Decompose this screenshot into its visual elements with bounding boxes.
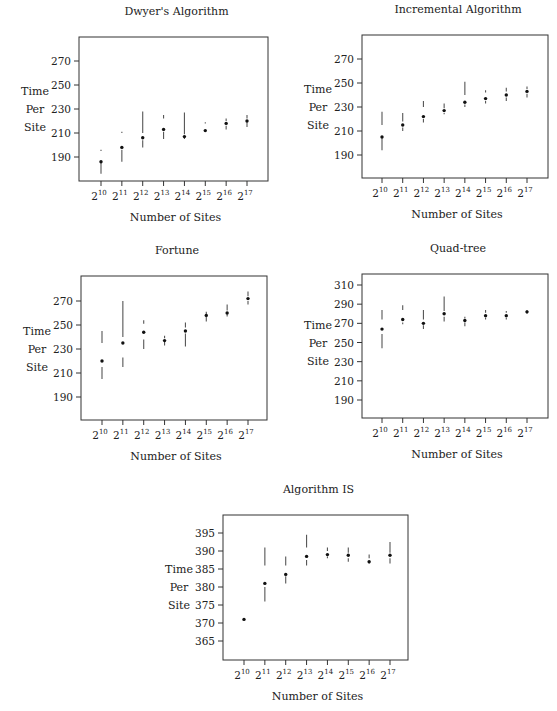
x-tick-label: 212 <box>414 186 430 199</box>
y-tick-label: 250 <box>51 79 71 91</box>
x-tick-label: 211 <box>393 186 409 199</box>
plot-frame <box>79 37 268 181</box>
y-tick-label: 210 <box>51 127 71 139</box>
chart-title: Fortune <box>155 244 199 257</box>
y-axis-label: Site <box>307 119 329 132</box>
x-tick-label: 213 <box>434 426 450 439</box>
median-point <box>99 160 102 163</box>
median-point <box>401 123 404 126</box>
x-tick-label: 212 <box>414 426 430 439</box>
x-tick-label: 211 <box>393 426 409 439</box>
y-tick-label: 390 <box>195 545 215 557</box>
y-axis-label: Per <box>309 337 328 350</box>
y-axis-label: Time <box>23 325 51 338</box>
x-tick-label: 213 <box>297 668 313 681</box>
y-tick-label: 190 <box>53 391 73 403</box>
median-point <box>401 318 404 321</box>
y-tick-label: 270 <box>334 317 354 329</box>
x-tick-label: 215 <box>196 428 212 441</box>
median-point <box>422 115 425 118</box>
x-tick-label: 217 <box>517 186 533 199</box>
chart-panel-4: Algorithm IS365370375380385390395TimePer… <box>165 483 408 703</box>
median-point <box>121 341 124 344</box>
median-point <box>505 93 508 96</box>
median-point <box>142 331 145 334</box>
x-tick-label: 214 <box>318 668 334 681</box>
x-tick-label: 212 <box>276 668 292 681</box>
y-tick-label: 230 <box>53 343 73 355</box>
median-point <box>162 128 165 131</box>
plot-frame <box>81 276 267 420</box>
x-tick-label: 213 <box>434 186 450 199</box>
y-tick-label: 230 <box>51 103 71 115</box>
median-point <box>347 554 350 557</box>
x-tick-label: 216 <box>217 428 233 441</box>
y-axis-label: Per <box>26 103 45 116</box>
figure-canvas: Dwyer's Algorithm190210230250270TimePerS… <box>0 0 557 711</box>
y-axis-label: Site <box>168 599 190 612</box>
median-point <box>525 310 528 313</box>
chart-title: Dwyer's Algorithm <box>124 5 229 18</box>
y-tick-label: 210 <box>334 125 354 137</box>
x-tick-label: 215 <box>476 426 492 439</box>
x-tick-label: 213 <box>155 428 171 441</box>
x-tick-label: 214 <box>455 426 471 439</box>
y-axis-label: Site <box>24 121 46 134</box>
x-tick-label: 216 <box>496 186 512 199</box>
x-tick-label: 213 <box>154 189 170 202</box>
x-tick-label: 214 <box>176 428 192 441</box>
y-tick-label: 270 <box>334 53 354 65</box>
y-tick-label: 290 <box>334 298 354 310</box>
y-tick-label: 395 <box>195 527 215 539</box>
y-tick-label: 270 <box>53 295 73 307</box>
plot-frame <box>362 35 548 178</box>
median-point <box>183 135 186 138</box>
chart-panel-0: Dwyer's Algorithm190210230250270TimePerS… <box>21 5 268 224</box>
y-tick-label: 250 <box>334 77 354 89</box>
x-tick-label: 215 <box>195 189 211 202</box>
median-point <box>380 135 383 138</box>
plot-frame <box>362 274 548 418</box>
median-point <box>442 109 445 112</box>
median-point <box>204 129 207 132</box>
y-axis-label: Time <box>304 319 332 332</box>
median-point <box>284 573 287 576</box>
median-point <box>484 97 487 100</box>
y-tick-label: 210 <box>53 367 73 379</box>
y-axis-label: Per <box>309 101 328 114</box>
median-point <box>484 314 487 317</box>
y-axis-label: Time <box>304 83 332 96</box>
y-axis-label: Per <box>28 343 47 356</box>
median-point <box>367 560 370 563</box>
x-tick-label: 212 <box>134 428 150 441</box>
median-point <box>225 311 228 314</box>
x-axis-label: Number of Sites <box>130 450 222 463</box>
median-point <box>246 297 249 300</box>
median-point <box>463 319 466 322</box>
chart-panel-3: Quad-tree190210230250270290310TimePerSit… <box>304 242 548 461</box>
x-tick-label: 215 <box>338 668 354 681</box>
median-point <box>463 101 466 104</box>
y-tick-label: 190 <box>51 151 71 163</box>
median-point <box>305 555 308 558</box>
x-axis-label: Number of Sites <box>411 208 503 221</box>
y-tick-label: 230 <box>334 356 354 368</box>
median-point <box>141 136 144 139</box>
x-tick-label: 217 <box>380 668 396 681</box>
y-axis-label: Site <box>26 361 48 374</box>
median-point <box>388 554 391 557</box>
x-tick-label: 210 <box>91 189 107 202</box>
y-tick-label: 380 <box>195 581 215 593</box>
median-point <box>422 322 425 325</box>
plot-frame <box>223 515 408 660</box>
median-point <box>242 618 245 621</box>
y-axis-label: Site <box>307 355 329 368</box>
x-tick-label: 211 <box>112 189 128 202</box>
y-tick-label: 270 <box>51 55 71 67</box>
median-point <box>263 582 266 585</box>
y-tick-label: 370 <box>195 617 215 629</box>
x-tick-label: 211 <box>113 428 129 441</box>
x-tick-label: 212 <box>133 189 149 202</box>
x-tick-label: 211 <box>255 668 271 681</box>
chart-title: Quad-tree <box>430 242 486 255</box>
